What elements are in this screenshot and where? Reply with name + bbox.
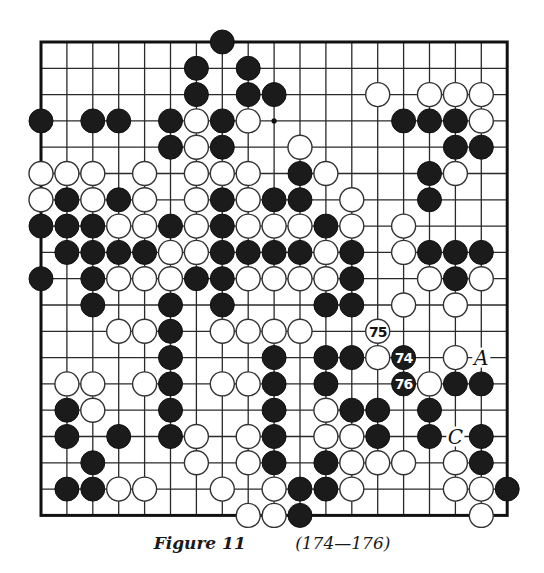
white-stone [236,503,260,527]
black-stone [392,109,416,133]
white-stone [392,240,416,264]
white-stone [314,267,338,291]
white-stone [184,109,208,133]
white-stone [55,372,79,396]
black-stone [81,451,105,475]
star-points [272,118,277,123]
white-stone [236,319,260,343]
white-stone [443,83,467,107]
black-stone [288,240,312,264]
black-stone [418,162,442,186]
stones: 757476 [29,30,519,527]
black-stone: 76 [392,372,416,396]
white-stone [236,267,260,291]
white-stone [133,267,157,291]
star-point [272,118,277,123]
black-stone [443,372,467,396]
white-stone [288,267,312,291]
black-stone [262,188,286,212]
black-stone [210,109,234,133]
black-stone [340,346,364,370]
black-stone [236,56,260,80]
white-stone [236,214,260,238]
move-number: 75 [369,324,387,340]
white-stone [340,451,364,475]
white-stone [469,83,493,107]
black-stone [469,372,493,396]
black-stone [418,109,442,133]
black-stone: 74 [392,346,416,370]
black-stone [210,214,234,238]
white-stone [262,267,286,291]
black-stone [210,135,234,159]
black-stone [81,477,105,501]
black-stone [107,109,131,133]
black-stone [55,188,79,212]
white-stone [443,451,467,475]
move-number: 74 [395,350,414,366]
black-stone [262,346,286,370]
white-stone [443,346,467,370]
white-stone [184,214,208,238]
point-label-a: A [472,346,488,370]
white-stone [133,188,157,212]
white-stone [340,188,364,212]
white-stone [236,372,260,396]
black-stone [469,135,493,159]
black-stone [81,267,105,291]
white-stone [133,214,157,238]
black-stone [418,425,442,449]
white-stone [392,214,416,238]
white-stone [184,162,208,186]
white-stone [184,240,208,264]
black-stone [55,398,79,422]
white-stone [133,372,157,396]
black-stone [210,30,234,54]
black-stone [443,109,467,133]
black-stone [314,477,338,501]
black-stone [184,56,208,80]
black-stone [469,451,493,475]
white-stone [262,503,286,527]
white-stone [262,319,286,343]
black-stone [366,425,390,449]
black-stone [159,214,183,238]
white-stone [340,477,364,501]
black-stone [418,240,442,264]
black-stone [314,214,338,238]
white-stone [133,319,157,343]
black-stone [159,109,183,133]
black-stone [262,83,286,107]
white-stone [184,135,208,159]
white-stone [210,372,234,396]
white-stone: 75 [366,319,390,343]
black-stone [366,398,390,422]
black-stone [443,240,467,264]
black-stone [288,188,312,212]
white-stone [262,477,286,501]
white-stone [314,162,338,186]
black-stone [443,267,467,291]
white-stone [340,425,364,449]
black-stone [159,293,183,317]
black-stone [81,109,105,133]
black-stone [288,162,312,186]
black-stone [495,477,519,501]
black-stone [262,425,286,449]
white-stone [288,319,312,343]
white-stone [107,267,131,291]
white-stone [366,451,390,475]
black-stone [210,240,234,264]
white-stone [81,162,105,186]
black-stone [81,214,105,238]
white-stone [392,451,416,475]
white-stone [107,319,131,343]
black-stone [159,319,183,343]
black-stone [159,372,183,396]
black-stone [107,240,131,264]
black-stone [288,503,312,527]
black-stone [314,346,338,370]
white-stone [236,425,260,449]
white-stone [159,267,183,291]
white-stone [469,477,493,501]
